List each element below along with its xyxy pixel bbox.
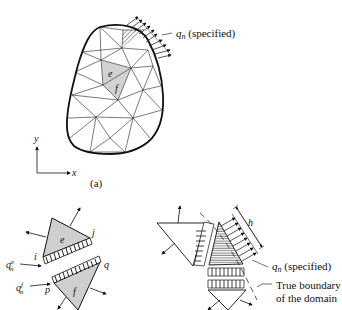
- flux-label-a: qn (specified): [176, 27, 236, 41]
- flux-e-label: qen: [6, 258, 14, 273]
- coordinate-axes: [37, 147, 70, 173]
- caption-a: (a): [90, 177, 103, 190]
- finite-element-diagram: qn (specified) e f y x (a): [0, 0, 342, 310]
- x-axis-label: x: [71, 167, 77, 178]
- flux-f-label: qfn: [16, 281, 24, 296]
- true-boundary-label-line2: of the domain: [276, 292, 338, 304]
- element-e-label: e: [108, 68, 113, 79]
- boundary-element-detail: h qn (specified) True boundary of the do…: [157, 205, 341, 310]
- node-q-label: q: [104, 259, 109, 270]
- node-j-label: j: [90, 227, 95, 238]
- node-i-label: i: [34, 251, 37, 262]
- y-axis-label: y: [33, 133, 39, 144]
- true-boundary-label-line1: True boundary: [276, 279, 341, 291]
- element-e-label-b: e: [60, 234, 65, 245]
- domain-mesh: qn (specified) e f: [67, 16, 236, 154]
- node-p-label: p: [44, 284, 50, 295]
- element-pair: e f i j p q qen qfn: [6, 208, 109, 310]
- flux-label-c: qn (specified): [272, 260, 332, 274]
- height-label: h: [248, 217, 253, 228]
